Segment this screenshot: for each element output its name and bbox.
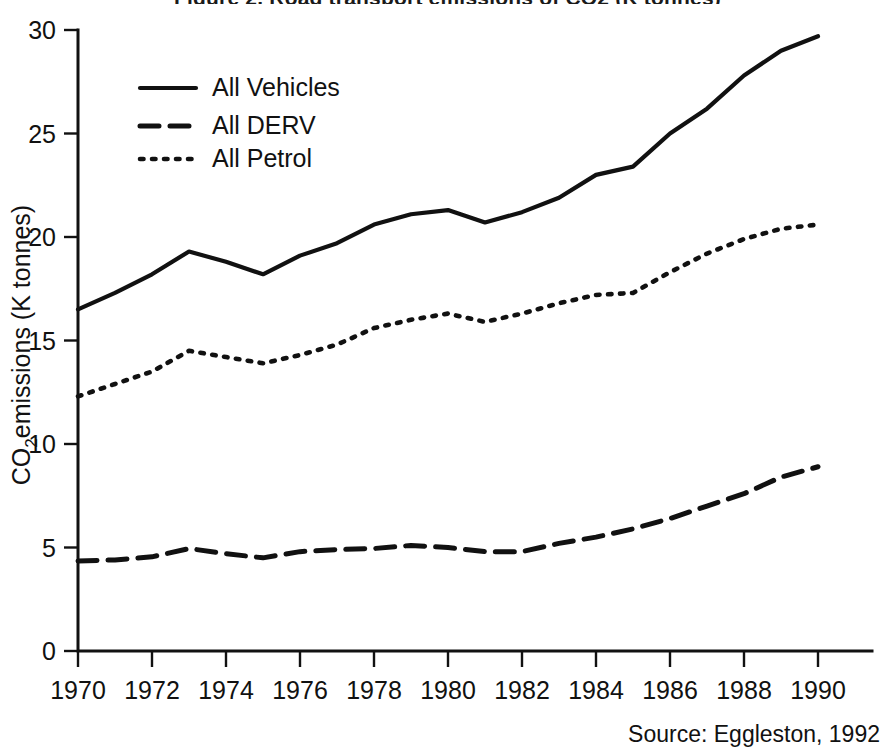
source-note: Source: Eggleston, 1992: [628, 721, 880, 747]
x-axis-ticks: 1970197219741976197819801982198419861988…: [50, 651, 846, 704]
legend-label-all-derv: All DERV: [212, 111, 316, 139]
x-tick-label: 1976: [272, 676, 328, 704]
x-tick-label: 1990: [790, 676, 846, 704]
chart-figure: Figure 2. Road transport emissions of CO…: [0, 0, 895, 755]
y-tick-label: 25: [28, 120, 56, 148]
x-tick-label: 1988: [716, 676, 772, 704]
y-axis-title-subscript: 2: [22, 438, 41, 447]
x-tick-label: 1970: [50, 676, 106, 704]
x-tick-label: 1980: [420, 676, 476, 704]
y-tick-label: 0: [42, 637, 56, 665]
x-tick-label: 1982: [494, 676, 550, 704]
y-axis-ticks: 051015202530: [28, 16, 78, 665]
x-tick-label: 1972: [124, 676, 180, 704]
y-tick-label: 30: [28, 16, 56, 44]
x-tick-label: 1978: [346, 676, 402, 704]
chart-title: Figure 2. Road transport emissions of CO…: [0, 0, 895, 4]
x-tick-label: 1974: [198, 676, 254, 704]
legend-label-all-vehicles: All Vehicles: [212, 73, 340, 101]
y-tick-label: 5: [42, 534, 56, 562]
y-axis-title-rest: emissions (K tonnes): [7, 205, 35, 438]
series-line-all-derv: [78, 467, 818, 561]
axis-frame: [78, 30, 872, 651]
legend-label-all-petrol: All Petrol: [212, 144, 312, 172]
chart-plot-area: 051015202530 197019721974197619781980198…: [0, 0, 895, 755]
chart-legend: All Vehicles All DERV All Petrol: [140, 73, 340, 172]
y-axis-title-co: CO: [7, 448, 35, 486]
x-tick-label: 1984: [568, 676, 624, 704]
series-line-all-vehicles: [78, 36, 818, 309]
x-tick-label: 1986: [642, 676, 698, 704]
